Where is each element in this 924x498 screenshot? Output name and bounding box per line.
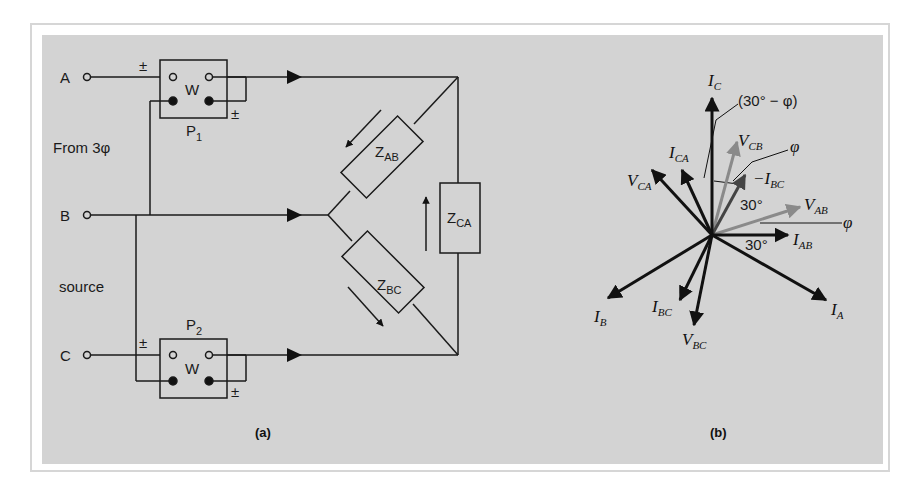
impedance-zbc xyxy=(342,231,424,313)
wattmeter-p2-symbol: W xyxy=(185,360,200,377)
label-ia: IA xyxy=(830,300,844,321)
label-vab: VAB xyxy=(804,195,828,216)
terminal-b-label: B xyxy=(60,207,70,224)
wattmeter-p1-symbol: W xyxy=(185,81,200,98)
label-vcb: VCB xyxy=(738,131,763,152)
phasor-vca xyxy=(652,170,712,235)
phasor-ica xyxy=(682,170,712,235)
source-label-line1: From 3φ xyxy=(53,139,111,156)
label-ibc: IBC xyxy=(651,297,672,318)
label-ica: ICA xyxy=(668,143,689,164)
angle-phi-right: φ xyxy=(843,213,852,232)
caption-b: (b) xyxy=(710,425,727,440)
phasor-vcb xyxy=(712,142,737,235)
terminal-c-label: C xyxy=(60,347,71,364)
label-iab: IAB xyxy=(792,230,812,251)
impedance-zca-label: ZCA xyxy=(447,209,472,229)
terminal-a-label: A xyxy=(60,69,70,86)
line-b-arrow-icon xyxy=(287,208,302,222)
angle-phi-upper: φ xyxy=(790,137,799,156)
label-vbc: VBC xyxy=(682,330,707,351)
terminal-a-icon xyxy=(84,74,91,81)
polarity-mark: ± xyxy=(231,383,239,400)
line-c-arrow-icon xyxy=(287,348,302,362)
figure-svg: A B C From 3φ source W W ± ± ± ± P1 P2 Z… xyxy=(0,0,924,498)
label-ic: IC xyxy=(707,71,722,92)
polarity-mark: ± xyxy=(231,105,239,122)
angle-30-lower: 30° xyxy=(745,236,768,253)
source-label-line2: source xyxy=(59,278,104,295)
label-ib: IB xyxy=(593,307,607,328)
line-a-arrow-icon xyxy=(287,70,302,84)
polarity-mark: ± xyxy=(139,57,147,74)
terminal-b-icon xyxy=(84,212,91,219)
wattmeter-p2-label: P2 xyxy=(186,316,202,337)
angle-30-minus-phi: (30° − φ) xyxy=(738,92,798,109)
polarity-mark: ± xyxy=(139,334,147,351)
caption-a: (a) xyxy=(255,425,271,440)
label-vca: VCA xyxy=(627,171,652,192)
phasor-vbc xyxy=(694,235,712,325)
label-neg-ibc: −IBC xyxy=(753,169,785,190)
terminal-c-icon xyxy=(84,352,91,359)
angle-30-upper: 30° xyxy=(740,196,763,213)
wattmeter-p1-label: P1 xyxy=(186,122,202,143)
